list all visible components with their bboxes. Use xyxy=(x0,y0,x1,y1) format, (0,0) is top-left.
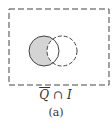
expr-right: I xyxy=(67,88,73,102)
set-expression: Q∩I xyxy=(0,88,112,102)
universe-frame xyxy=(9,9,109,85)
figure-caption: (a) xyxy=(0,106,112,119)
expr-left: Q xyxy=(39,88,50,102)
venn-diagram xyxy=(0,0,112,88)
expr-operator: ∩ xyxy=(53,88,64,102)
